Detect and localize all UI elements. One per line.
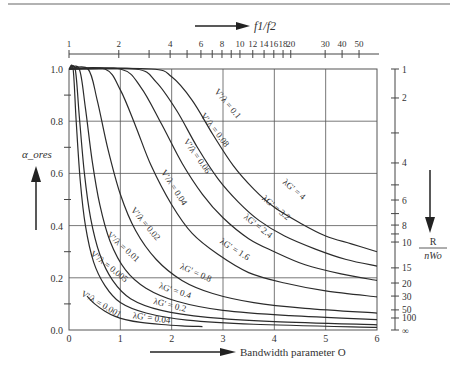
right-tick-label: 100 (402, 313, 417, 323)
curve-label: V'/λ = 0.1 (213, 87, 244, 121)
top-tick-label: 40 (338, 39, 348, 49)
chart: f1/f2 12468101214161820304050 V'/λ = 0.1… (0, 0, 459, 377)
x-tick-label: 6 (375, 333, 380, 344)
right-tick-label: 1 (402, 65, 407, 75)
top-tick-label: 4 (168, 39, 173, 49)
top-tick-label: 8 (220, 39, 225, 49)
right-tick-label: 20 (402, 279, 412, 289)
top-tick-label: 14 (260, 39, 270, 49)
curve-label: V'/λ = 0.02 (129, 205, 163, 242)
right-tick-label: 6 (402, 196, 407, 206)
y-axis-label: α_ores (22, 148, 52, 160)
top-tick-label: 50 (355, 39, 365, 49)
right-tick-label: 4 (402, 158, 407, 168)
right-arrow-icon (425, 217, 435, 233)
y-tick-label: 0.4 (51, 221, 64, 232)
curve-label: V'/λ = 0.01 (105, 230, 142, 264)
y-tick-label: 0.8 (51, 116, 64, 127)
right-axis-label-num: R (430, 236, 437, 247)
top-tick-label: 10 (235, 39, 245, 49)
right-tick-label: ∞ (402, 326, 409, 336)
plot-grid (69, 69, 377, 330)
x-tick-label: 4 (272, 333, 277, 344)
curve-label: V'/λ = 0.08 (199, 111, 232, 149)
ylabel-group: α_ores (22, 148, 52, 230)
curve-label: V'/λ = 0.001 (79, 288, 123, 319)
right-tick-label: 30 (402, 292, 412, 302)
right-tick-label: 8 (402, 221, 407, 231)
y-tick-label: 1.0 (51, 64, 64, 75)
y-tick-label: 0.2 (51, 273, 64, 284)
top-axis-label: f1/f2 (254, 19, 276, 33)
right-axis: 124681015203050100∞ R nWo (391, 65, 447, 336)
y-tick-label: 0.6 (51, 168, 64, 179)
top-tick-label: 12 (248, 39, 257, 49)
top-tick-label: 2 (117, 39, 122, 49)
x-axis-label: Bandwidth parameter O (240, 346, 346, 358)
y-arrow-icon (31, 166, 41, 182)
top-tick-label: 6 (199, 39, 204, 49)
right-tick-label: 10 (402, 238, 412, 248)
top-tick-label: 16 (269, 39, 279, 49)
x-arrow-icon (220, 348, 236, 356)
xlabel-group: Bandwidth parameter O (150, 346, 346, 358)
curve-label: λG' = 0.8 (179, 261, 214, 284)
curve-label: λG' = 3.2 (260, 193, 292, 222)
right-tick-label: 2 (402, 93, 407, 103)
right-tick-label: 15 (402, 263, 412, 273)
top-tick-label: 20 (286, 39, 296, 49)
x-tick-label: 3 (221, 333, 226, 344)
bottom-axis: 0123456 (67, 333, 380, 344)
top-tick-label: 30 (321, 39, 331, 49)
x-tick-label: 0 (67, 333, 72, 344)
curve-label: λG' = 4 (281, 177, 308, 202)
top-tick-label: 1 (67, 39, 72, 49)
left-axis: 0.00.20.40.60.81.0 (51, 64, 72, 336)
top-axis: f1/f2 12468101214161820304050 (67, 19, 379, 58)
curve-labels: V'/λ = 0.1V'/λ = 0.08V'/λ = 0.06V'/λ = 0… (79, 87, 308, 326)
right-axis-label-den: nWo (424, 250, 441, 261)
x-tick-label: 5 (323, 333, 328, 344)
x-tick-label: 2 (169, 333, 174, 344)
y-tick-label: 0.0 (51, 325, 64, 336)
x-tick-label: 1 (118, 333, 123, 344)
